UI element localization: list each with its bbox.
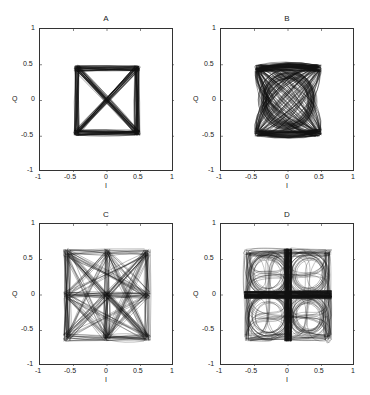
trajectory-plot	[221, 224, 355, 366]
x-tick: 1	[351, 367, 355, 374]
panel-title: D	[220, 210, 354, 219]
panel-d: D 1 0.5 0 -0.5 -1 -1 -0.5 0 0.5 1 I Q	[0, 0, 370, 395]
x-tick: -0.5	[245, 367, 257, 374]
x-tick: 0.5	[314, 367, 324, 374]
y-tick: -1	[208, 360, 214, 367]
y-tick: 0	[212, 290, 216, 297]
x-tick: 0	[285, 367, 289, 374]
plot-area	[220, 223, 354, 365]
y-tick: -0.5	[202, 325, 214, 332]
y-tick: 0.5	[204, 254, 214, 261]
x-tick: -1	[216, 367, 222, 374]
y-axis-label: Q	[193, 290, 198, 297]
y-tick: 1	[212, 219, 216, 226]
x-axis-label: I	[282, 376, 292, 383]
